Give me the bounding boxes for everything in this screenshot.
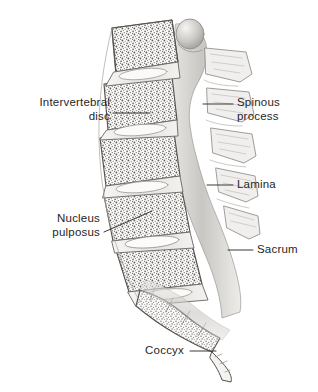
label-sacrum: Sacrum — [257, 243, 315, 257]
label-nucleus-pulposus: Nucleus pulposus — [22, 212, 100, 239]
label-coccyx: Coccyx — [128, 344, 184, 358]
spine-illustration — [0, 0, 318, 392]
label-spinous-process: Spinous process — [237, 96, 311, 123]
label-lamina: Lamina — [237, 178, 311, 192]
coccyx — [210, 352, 231, 382]
label-intervertebral-disc: Intervertebral disc — [18, 96, 110, 123]
anatomy-figure: Intervertebral disc Spinous process Lami… — [0, 0, 318, 392]
